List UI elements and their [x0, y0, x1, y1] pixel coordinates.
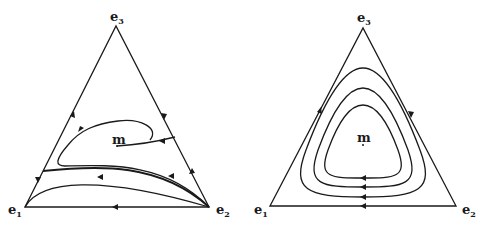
- figure-canvas: m e3 e1 e2 m e3 e1 e2: [0, 0, 481, 238]
- label-e1-left: e1: [8, 202, 22, 219]
- label-e2-left: e2: [216, 202, 230, 219]
- arrow-icon: [112, 204, 118, 210]
- arrow-icon: [97, 174, 103, 180]
- label-e1-right: e1: [254, 202, 268, 219]
- label-m-right: m: [357, 130, 371, 145]
- label-m-left: m: [112, 132, 126, 147]
- left-triangle: [25, 26, 209, 207]
- arrow-icon: [360, 184, 366, 190]
- label-e2-right: e2: [462, 202, 476, 219]
- arrow-icon: [35, 177, 41, 183]
- arrow-icon: [360, 175, 366, 181]
- label-e3-right: e3: [357, 10, 371, 27]
- arrow-icon: [360, 194, 366, 200]
- arrow-icon: [159, 138, 165, 144]
- left-simplex: [25, 26, 209, 210]
- arrow-icon: [168, 173, 174, 179]
- label-e3-left: e3: [110, 9, 124, 26]
- right-simplex: [270, 28, 456, 209]
- arrow-icon: [360, 203, 366, 209]
